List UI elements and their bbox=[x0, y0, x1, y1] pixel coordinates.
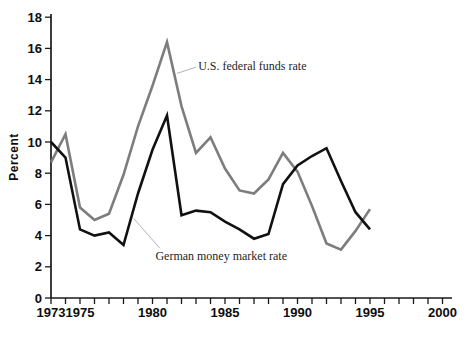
x-tick-label: 1975 bbox=[66, 305, 95, 320]
y-tick-label: 10 bbox=[28, 135, 42, 150]
y-tick-label: 4 bbox=[35, 228, 43, 243]
annotation-leaders bbox=[134, 67, 196, 248]
y-tick-label: 2 bbox=[35, 259, 42, 274]
x-tick-label: 1990 bbox=[283, 305, 312, 320]
x-axis-ticks: 1973197519801985199019952000 bbox=[37, 298, 457, 320]
y-tick-label: 8 bbox=[35, 166, 42, 181]
series-line-german-money-market-rate bbox=[51, 116, 370, 246]
x-tick-label: 2000 bbox=[428, 305, 457, 320]
y-tick-label: 6 bbox=[35, 197, 42, 212]
leader-line-0 bbox=[177, 67, 196, 73]
annotation-us-federal-funds-rate: U.S. federal funds rate bbox=[198, 59, 306, 74]
y-tick-label: 12 bbox=[28, 103, 42, 118]
x-tick-label: 1995 bbox=[356, 305, 385, 320]
x-tick-label: 1973 bbox=[37, 305, 66, 320]
y-tick-label: 0 bbox=[35, 291, 42, 306]
y-tick-label: 16 bbox=[28, 41, 42, 56]
leader-line-1 bbox=[134, 218, 160, 248]
x-tick-label: 1980 bbox=[138, 305, 167, 320]
y-tick-label: 18 bbox=[28, 10, 42, 25]
y-axis-ticks: 024681012141618 bbox=[28, 10, 51, 306]
annotation-german-money-market-rate: German money market rate bbox=[155, 249, 287, 264]
y-tick-label: 14 bbox=[28, 72, 43, 87]
x-tick-label: 1985 bbox=[211, 305, 240, 320]
y-axis-title: Percent bbox=[7, 133, 21, 181]
plot-svg: 0246810121416181973197519801985199019952… bbox=[0, 0, 467, 340]
chart-figure: 0246810121416181973197519801985199019952… bbox=[0, 0, 467, 340]
